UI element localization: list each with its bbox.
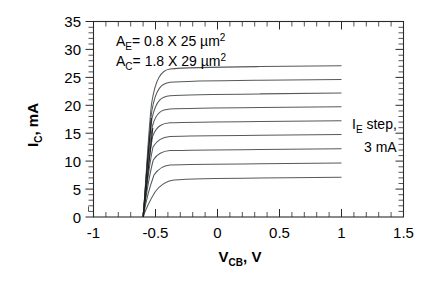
y-tick-label-0: 0 [73,209,81,226]
y-tick-label-10: 10 [64,153,81,170]
x-tick-label-neg1: -1 [87,224,100,241]
x-tick-label-neg0p5: -0.5 [143,224,169,241]
annotation-collector-subscript: C [125,61,132,72]
x-tick-label-0: 0 [213,224,221,241]
x-tick-label-0p5: 0.5 [269,224,290,241]
annotation-emitter-value: = 0.8 X 25 µm [132,33,220,49]
x-axis-title-subscript: CB [229,257,243,268]
annotation-collector-superscript: 2 [220,52,226,63]
x-axis-title-unit: , V [243,248,261,265]
annotation-emitter-superscript: 2 [220,32,226,43]
annotation-collector-value: = 1.8 X 29 µm [133,53,221,69]
y-tick-label-35: 35 [64,13,81,30]
annotation-step-text: step, [363,116,397,132]
annotation-ie-step-value: 3 mA [364,139,397,155]
ic-vcb-output-characteristics-chart: 0 5 10 15 20 25 30 35 -1 -0.5 0 0.5 1 1.… [0,0,437,284]
y-axis-title-subscript: C [33,136,44,143]
y-tick-label-5: 5 [73,181,81,198]
chart-root: 0 5 10 15 20 25 30 35 -1 -0.5 0 0.5 1 1.… [0,0,437,284]
x-tick-label-1: 1 [337,224,345,241]
y-axis-title-unit: , mA [24,103,41,136]
y-tick-label-30: 30 [64,41,81,58]
x-axis-title-symbol: V [219,248,229,265]
y-tick-label-20: 20 [64,97,81,114]
y-tick-label-25: 25 [64,69,81,86]
x-tick-label-1p5: 1.5 [393,224,414,241]
y-tick-label-15: 15 [64,125,81,142]
